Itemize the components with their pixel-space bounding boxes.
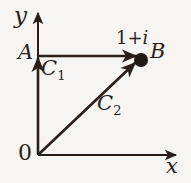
path-c2-label-subscript: 2 [113,103,121,118]
point-b-value-imaginary: i [143,27,149,48]
path-c2-label: C2 [97,93,122,117]
point-b-marker [134,53,148,67]
path-c1-label-base: C [41,56,57,80]
x-axis-label: x [166,156,178,177]
complex-plane-figure: y x 0 A B 1+i C1 C2 [0,0,191,183]
point-b-label: B [150,41,165,62]
path-c2-label-base: C [97,91,113,115]
point-a-label: A [18,42,33,63]
y-axis-label: y [14,4,27,27]
origin-label: 0 [18,142,32,164]
point-b-value-real: 1+ [116,27,143,48]
path-c1-label: C1 [41,58,66,82]
point-b-value-label: 1+i [116,29,148,47]
path-c1-label-subscript: 1 [57,68,65,83]
